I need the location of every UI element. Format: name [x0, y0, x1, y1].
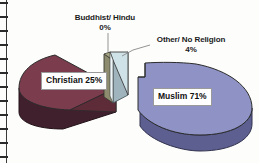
- slice-label-other-pct: 4%: [138, 45, 244, 55]
- slice-label-buddhist-pct: 0%: [62, 23, 148, 33]
- pie-slice-muslim: [138, 62, 252, 151]
- slice-label-christian: Christian 25%: [41, 72, 107, 90]
- slice-label-muslim-pct: 71%: [190, 91, 207, 101]
- slice-label-muslim: Muslim 71%: [153, 88, 212, 106]
- slice-label-other: Other/ No Religion 4%: [138, 35, 244, 55]
- pie-chart-image: Buddhist/ Hindu 0% Other/ No Religion 4%…: [0, 0, 259, 163]
- pie-slice-other: [110, 52, 128, 103]
- slice-label-other-name: Other/ No Religion: [157, 35, 225, 44]
- slice-label-buddhist: Buddhist/ Hindu 0%: [62, 13, 148, 33]
- slice-label-christian-pct: 25%: [85, 75, 102, 85]
- slice-label-muslim-name: Muslim: [158, 91, 187, 101]
- pie-slice-christian: [19, 55, 116, 129]
- slice-label-buddhist-name: Buddhist/ Hindu: [75, 13, 135, 22]
- slice-label-christian-name: Christian: [46, 75, 83, 85]
